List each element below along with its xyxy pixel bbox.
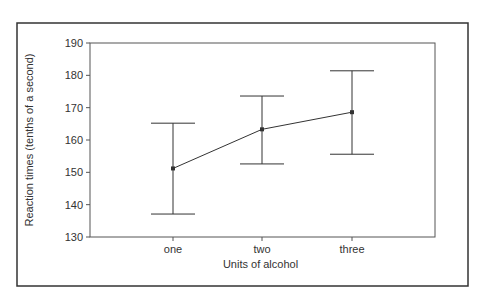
data-point — [350, 110, 354, 114]
series-layer — [151, 71, 374, 214]
x-tick-label: one — [164, 243, 182, 255]
y-tick-label: 150 — [65, 166, 83, 178]
data-point — [171, 166, 175, 170]
y-tick-label: 170 — [65, 102, 83, 114]
y-tick-label: 140 — [65, 199, 83, 211]
error-bar-chart: 130140150160170180190 onetwothree Units … — [0, 0, 478, 299]
y-tick-label: 180 — [65, 69, 83, 81]
x-tick-label: three — [339, 243, 364, 255]
data-point — [260, 127, 264, 131]
chart: 130140150160170180190 onetwothree Units … — [0, 0, 478, 299]
outer-frame — [17, 23, 468, 286]
y-tick-label: 190 — [65, 37, 83, 49]
x-tick-label: two — [253, 243, 270, 255]
y-tick-label: 130 — [65, 231, 83, 243]
y-axis-label: Reaction times (tenths of a second) — [23, 53, 35, 226]
x-axis-label: Units of alcohol — [223, 258, 298, 270]
y-tick-label: 160 — [65, 134, 83, 146]
y-axis: 130140150160170180190 — [65, 37, 90, 243]
x-axis: onetwothree — [164, 237, 365, 255]
